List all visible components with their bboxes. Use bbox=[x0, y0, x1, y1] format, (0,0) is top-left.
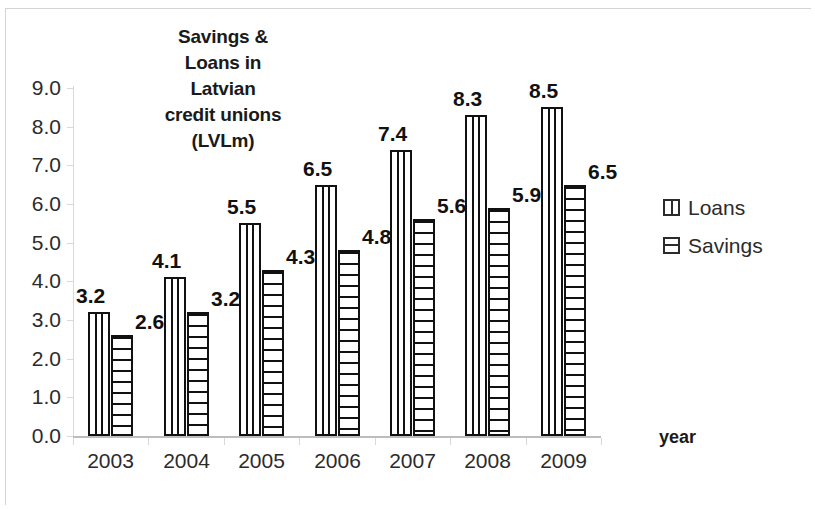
data-label-loans: 8.3 bbox=[453, 88, 482, 109]
y-axis-tick bbox=[67, 243, 73, 244]
x-axis-tick-label: 2008 bbox=[450, 449, 525, 473]
y-axis-tick-label: 9.0 bbox=[5, 77, 61, 98]
x-axis-tick bbox=[148, 438, 149, 445]
y-axis-tick bbox=[67, 320, 73, 321]
x-axis-tick-label: 2004 bbox=[149, 449, 224, 473]
chart-title-line-4: credit unions bbox=[128, 102, 318, 128]
x-axis-line bbox=[73, 436, 601, 438]
x-axis-tick bbox=[450, 438, 451, 445]
data-label-loans: 8.5 bbox=[529, 80, 558, 101]
x-axis-tick bbox=[375, 438, 376, 445]
x-axis-tick bbox=[601, 438, 602, 445]
legend-vertical-stripe-icon bbox=[663, 199, 680, 216]
data-label-savings: 4.8 bbox=[362, 226, 391, 247]
x-axis-tick bbox=[224, 438, 225, 445]
x-axis-tick-label: 2003 bbox=[73, 449, 148, 473]
x-axis-tick-label: 2009 bbox=[526, 449, 601, 473]
bar-savings[interactable] bbox=[488, 208, 510, 436]
bar-loans[interactable] bbox=[88, 312, 110, 436]
bar-savings[interactable] bbox=[413, 219, 435, 436]
bar-loans[interactable] bbox=[239, 223, 261, 436]
y-axis-tick bbox=[67, 204, 73, 205]
data-label-savings: 2.6 bbox=[135, 311, 164, 332]
data-label-savings: 5.9 bbox=[512, 184, 541, 205]
legend-label-loans: Loans bbox=[688, 197, 745, 218]
chart-title-line-2: Loans in bbox=[128, 50, 318, 76]
data-label-loans: 7.4 bbox=[378, 123, 407, 144]
x-axis-title: year bbox=[659, 427, 696, 448]
chart-title: Savings & Loans in Latvian credit unions… bbox=[128, 24, 318, 154]
data-label-loans: 5.5 bbox=[227, 196, 256, 217]
y-axis-tick-label: 2.0 bbox=[5, 348, 61, 369]
bar-savings[interactable] bbox=[338, 250, 360, 436]
bar-savings[interactable] bbox=[262, 270, 284, 436]
y-axis-tick bbox=[67, 397, 73, 398]
x-axis-tick bbox=[526, 438, 527, 445]
y-axis-line bbox=[73, 86, 74, 438]
data-label-savings: 6.5 bbox=[588, 161, 617, 182]
y-axis-tick-label: 3.0 bbox=[5, 309, 61, 330]
y-axis-tick-label: 8.0 bbox=[5, 116, 61, 137]
chart-title-line-1: Savings & bbox=[128, 24, 318, 50]
data-label-loans: 4.1 bbox=[152, 250, 181, 271]
y-axis-tick bbox=[67, 359, 73, 360]
chart-title-line-5: (LVLm) bbox=[128, 128, 318, 154]
chart-legend: Loans Savings bbox=[663, 188, 763, 264]
legend-item-loans[interactable]: Loans bbox=[663, 188, 763, 226]
legend-horizontal-stripe-icon bbox=[663, 237, 680, 254]
bar-loans[interactable] bbox=[164, 277, 186, 436]
y-axis-tick bbox=[67, 281, 73, 282]
y-axis-tick-label: 6.0 bbox=[5, 193, 61, 214]
y-axis-tick bbox=[67, 88, 73, 89]
legend-label-savings: Savings bbox=[688, 235, 763, 256]
x-axis-tick bbox=[299, 438, 300, 445]
x-axis-tick-label: 2006 bbox=[300, 449, 375, 473]
bar-savings[interactable] bbox=[564, 185, 586, 436]
y-axis-tick bbox=[67, 127, 73, 128]
bar-savings[interactable] bbox=[187, 312, 209, 436]
x-axis-tick bbox=[73, 438, 74, 445]
data-label-loans: 3.2 bbox=[76, 285, 105, 306]
y-axis-tick-label: 4.0 bbox=[5, 270, 61, 291]
bar-loans[interactable] bbox=[315, 185, 337, 436]
y-axis-tick-label: 1.0 bbox=[5, 386, 61, 407]
bar-loans[interactable] bbox=[541, 107, 563, 436]
y-axis-tick-label: 5.0 bbox=[5, 232, 61, 253]
y-axis-tick-label: 7.0 bbox=[5, 154, 61, 175]
data-label-savings: 3.2 bbox=[211, 288, 240, 309]
chart-screenshot: Savings & Loans in Latvian credit unions… bbox=[0, 0, 815, 509]
x-axis-tick-label: 2005 bbox=[224, 449, 299, 473]
bar-loans[interactable] bbox=[390, 150, 412, 436]
y-axis-tick bbox=[67, 165, 73, 166]
chart-title-line-3: Latvian bbox=[128, 76, 318, 102]
y-axis-tick bbox=[67, 436, 73, 437]
data-label-savings: 5.6 bbox=[437, 195, 466, 216]
bar-savings[interactable] bbox=[111, 335, 133, 436]
y-axis-tick-label: 0.0 bbox=[5, 425, 61, 446]
x-axis-tick-label: 2007 bbox=[375, 449, 450, 473]
data-label-savings: 4.3 bbox=[286, 246, 315, 267]
bar-loans[interactable] bbox=[465, 115, 487, 436]
legend-item-savings[interactable]: Savings bbox=[663, 226, 763, 264]
data-label-loans: 6.5 bbox=[303, 158, 332, 179]
